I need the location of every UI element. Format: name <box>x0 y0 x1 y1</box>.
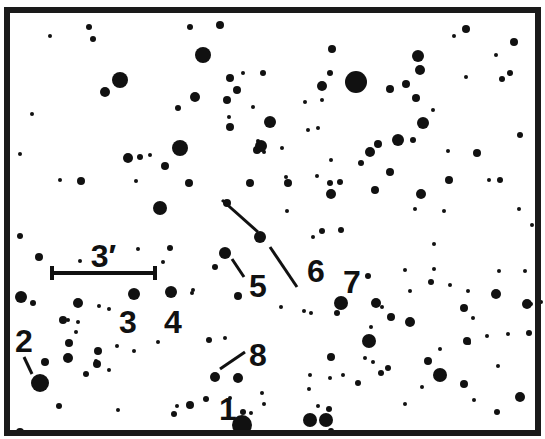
star <box>219 247 231 259</box>
star <box>227 115 231 119</box>
star <box>473 149 481 157</box>
star <box>76 320 80 324</box>
star <box>112 72 128 88</box>
star <box>134 179 138 183</box>
star <box>186 401 194 409</box>
star <box>86 24 92 30</box>
star <box>116 408 120 412</box>
star <box>420 385 424 389</box>
star <box>63 353 73 363</box>
star <box>65 339 73 347</box>
star <box>210 372 220 382</box>
star <box>494 409 500 415</box>
star <box>148 153 152 157</box>
star <box>497 269 501 273</box>
star <box>303 413 317 427</box>
star <box>73 298 83 308</box>
star <box>329 158 333 162</box>
star <box>515 392 525 402</box>
star <box>260 70 266 76</box>
star <box>97 304 101 308</box>
star <box>371 298 381 308</box>
star <box>15 291 27 303</box>
star-label-3: 3 <box>119 304 137 340</box>
star <box>408 289 412 293</box>
star <box>510 38 518 46</box>
star <box>284 179 292 187</box>
star <box>246 179 254 187</box>
star <box>507 70 513 76</box>
star <box>487 178 491 182</box>
star <box>378 370 384 376</box>
star <box>226 74 234 82</box>
star <box>94 347 102 355</box>
star <box>365 273 371 279</box>
star <box>185 179 193 187</box>
star <box>315 174 319 178</box>
star <box>496 364 500 368</box>
star <box>206 337 212 343</box>
star <box>363 356 367 360</box>
star <box>337 179 343 185</box>
star <box>402 80 410 88</box>
star <box>233 373 243 383</box>
star <box>136 247 140 251</box>
star <box>385 365 391 371</box>
star <box>433 368 447 382</box>
star <box>100 87 110 97</box>
star <box>327 70 333 76</box>
star <box>308 373 312 377</box>
star <box>93 360 101 368</box>
star <box>387 313 395 321</box>
star <box>467 341 471 345</box>
star <box>320 98 324 102</box>
star <box>494 53 498 57</box>
star <box>491 289 501 299</box>
star <box>328 45 336 53</box>
star <box>403 268 407 272</box>
star-label-4: 4 <box>164 304 182 340</box>
star <box>254 231 266 243</box>
star <box>362 334 376 348</box>
star <box>195 47 211 63</box>
star <box>59 316 67 324</box>
star <box>431 108 435 112</box>
star <box>392 134 404 146</box>
star <box>241 71 245 75</box>
star <box>223 336 227 340</box>
star <box>128 288 140 300</box>
star <box>187 24 193 30</box>
star <box>466 289 470 293</box>
star <box>260 391 264 395</box>
star <box>445 176 453 184</box>
star <box>327 180 333 186</box>
star <box>251 105 255 109</box>
star <box>316 404 320 408</box>
star <box>175 105 181 111</box>
star <box>386 85 394 93</box>
star <box>471 316 475 320</box>
star <box>319 413 333 427</box>
star <box>30 300 36 306</box>
star <box>280 146 284 150</box>
star <box>432 242 436 246</box>
star <box>41 358 49 366</box>
star <box>171 411 177 417</box>
star <box>279 305 283 309</box>
star <box>412 94 420 102</box>
star <box>132 349 136 353</box>
star <box>326 406 332 412</box>
star <box>517 132 523 138</box>
star <box>302 309 306 313</box>
star <box>77 177 85 185</box>
star <box>448 283 452 287</box>
star <box>309 311 313 315</box>
star <box>31 374 49 392</box>
star <box>161 162 169 170</box>
star <box>446 149 450 153</box>
star <box>410 137 416 143</box>
star <box>517 207 521 211</box>
star <box>460 304 468 312</box>
star <box>369 325 373 329</box>
star <box>415 65 425 75</box>
